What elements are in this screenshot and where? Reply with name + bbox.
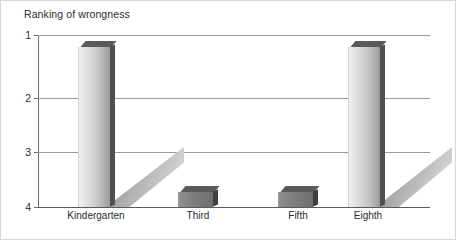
bar-front-face-fifth <box>278 192 313 207</box>
gridline-1: 1 <box>38 35 430 36</box>
ytick-mark-4 <box>34 207 38 208</box>
ytick-label-1: 1 <box>25 30 31 41</box>
bar-front-face-kindergarten <box>78 47 110 207</box>
plot-area: 1 2 3 4 <box>38 35 430 207</box>
bar-eighth <box>348 47 379 207</box>
xtick-label-kindergarten: Kindergarten <box>67 211 124 221</box>
chart-container: Ranking of wrongness 1 2 3 4 <box>0 0 457 241</box>
bar-fifth <box>278 192 312 207</box>
bar-shadow-eighth <box>376 147 452 207</box>
ytick-label-4: 4 <box>25 202 31 213</box>
chart-title: Ranking of wrongness <box>24 8 130 20</box>
ytick-mark-1 <box>34 35 38 36</box>
bar-front-face-eighth <box>348 47 380 207</box>
xtick-label-third: Third <box>187 211 210 221</box>
gridline-4-baseline: 4 <box>38 207 430 208</box>
bar-front-face-third <box>178 192 213 207</box>
ytick-mark-2 <box>34 98 38 99</box>
bar-kindergarten <box>78 47 109 207</box>
ytick-label-3: 3 <box>25 147 31 158</box>
ytick-mark-3 <box>34 152 38 153</box>
ytick-label-2: 2 <box>25 93 31 104</box>
xtick-label-fifth: Fifth <box>288 211 307 221</box>
xtick-label-eighth: Eighth <box>354 211 382 221</box>
bar-third <box>178 192 212 207</box>
bar-shadow-kindergarten <box>106 147 184 207</box>
